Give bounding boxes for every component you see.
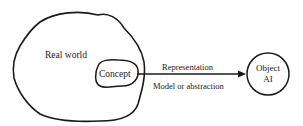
object-label: Object bbox=[256, 63, 280, 73]
concept-representation-diagram: Real world Concept Representation Model … bbox=[0, 0, 303, 126]
real-world-region bbox=[13, 12, 144, 121]
concept-label: Concept bbox=[99, 69, 131, 79]
arrow-label-representation: Representation bbox=[162, 62, 214, 72]
real-world-label: Real world bbox=[45, 50, 87, 60]
arrowhead-icon bbox=[238, 71, 246, 78]
ai-label: AI bbox=[263, 74, 273, 84]
arrow-label-model: Model or abstraction bbox=[153, 81, 225, 91]
